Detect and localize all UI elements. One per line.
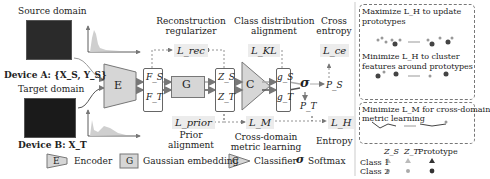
loss-rec: L_rec — [174, 44, 208, 57]
legend-col-zt: Z_T — [404, 147, 419, 157]
latent-s: Z_S — [218, 72, 235, 82]
legend-row-class2: Class 2 — [360, 167, 389, 177]
panel1-line4: features around prototypes — [362, 62, 473, 72]
loss-entropy: L_H — [328, 116, 354, 129]
legend-gaussian-key: G — [126, 156, 133, 166]
entropy-caption: Entropy — [316, 136, 353, 146]
legend-markers — [385, 158, 435, 173]
logits-t: g_T — [277, 92, 293, 102]
legend-classifier-key: C — [232, 156, 239, 166]
softmax-symbol: σ — [300, 78, 310, 88]
features-t: F_T — [146, 92, 163, 102]
features-s: F_S — [146, 72, 163, 82]
panel1-line1: Maximize L_H to update — [362, 7, 461, 17]
target-device-label: Device B: X_T — [18, 140, 87, 150]
target-domain-label: Target domain — [18, 84, 80, 94]
panel2-line2: metric learning — [362, 114, 425, 124]
legend-gaussian: Gaussian embedding — [143, 156, 238, 166]
ce-caption: Crossentropy — [316, 16, 352, 36]
legend-encoder: Encoder — [74, 156, 112, 166]
loss-ce: L_ce — [320, 44, 349, 57]
legend-softmax: Softmax — [308, 156, 346, 166]
encoder-label: E — [114, 81, 122, 91]
panel1-line2: prototypes — [362, 17, 406, 27]
metric-caption: Cross-domainmetric learning — [226, 132, 306, 152]
rec-caption: Reconstructionregularizer — [156, 16, 226, 36]
gaussian-label: G — [182, 80, 191, 90]
loss-metric: L_M — [246, 116, 274, 129]
prob-t: P_T — [300, 101, 317, 111]
source-domain-label: Source domain — [18, 6, 74, 16]
logits-s: g_S — [277, 72, 293, 82]
loss-prior: L_prior — [172, 116, 215, 129]
loss-kl: L_KL — [248, 44, 280, 57]
legend-encoder-key: E — [53, 156, 60, 166]
source-device-label: Device A: {X_S, Y_S} — [4, 70, 107, 80]
prior-caption: Prioralignment — [168, 130, 214, 150]
legend-col-prototype: Prototype — [418, 147, 458, 157]
kl-caption: Class distributionalignment — [234, 16, 314, 36]
panel1-line3: Minimize L_H to cluster — [362, 52, 460, 62]
legend-softmax-key: σ — [296, 155, 304, 165]
legend-classifier: Classifier — [254, 156, 297, 166]
source-image — [26, 20, 72, 60]
prob-s: P_S — [326, 80, 343, 90]
target-image — [24, 98, 76, 138]
latent-t: Z_T — [218, 92, 235, 102]
classifier-label: C — [246, 80, 254, 90]
legend-col-zs: Z_S — [384, 147, 399, 157]
